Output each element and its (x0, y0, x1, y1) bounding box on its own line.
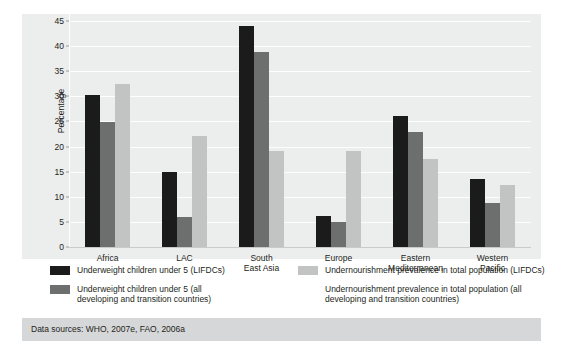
bar (100, 122, 115, 247)
y-axis-tick-label: 20 (55, 142, 64, 152)
chart-legend: Underweight children under 5 (LIFDCs) Un… (22, 265, 541, 310)
bar (485, 203, 500, 247)
bar (408, 132, 423, 248)
bar-group: Western Pacific (454, 21, 531, 247)
legend-item: Undernourishment prevalence in total pop… (298, 284, 548, 304)
legend-item: Underweight children under 5 (all develo… (50, 284, 280, 304)
legend-label: Underweight children under 5 (LIFDCs) (77, 265, 225, 275)
bar (115, 84, 130, 247)
chart-figure: Percentage 051015202530354045 AfricaLACS… (0, 0, 563, 349)
bar (192, 136, 207, 247)
legend-swatch-icon (298, 266, 318, 275)
bar (423, 159, 438, 247)
legend-label: Undernourishment prevalence in total pop… (325, 284, 522, 304)
x-axis-tick-label: Europe (325, 253, 352, 263)
data-source-bar: Data sources: WHO, 2007e, FAO, 2006a (22, 318, 541, 341)
bar (500, 185, 515, 247)
plot-panel: Percentage 051015202530354045 AfricaLACS… (22, 14, 541, 259)
y-axis-tick-label: 30 (55, 91, 64, 101)
y-axis-tick-label: 25 (55, 116, 64, 126)
x-axis-tick-label: Africa (97, 253, 119, 263)
bar (254, 52, 269, 247)
legend-swatch-icon (50, 285, 70, 294)
bar (331, 222, 346, 247)
y-axis-tick-label: 40 (55, 41, 64, 51)
bar (393, 116, 408, 247)
bar (269, 151, 284, 247)
bar (316, 216, 331, 247)
bar-group: South East Asia (223, 21, 300, 247)
y-axis-tick-label: 10 (55, 192, 64, 202)
bar (346, 151, 361, 247)
legend-item: Underweight children under 5 (LIFDCs) (50, 265, 280, 275)
y-axis-tick-label: 5 (59, 217, 64, 227)
bar (177, 217, 192, 247)
legend-label: Underweight children under 5 (all develo… (77, 284, 211, 304)
legend-item: Undernourishment prevalence in total pop… (298, 265, 548, 275)
bar-group: LAC (146, 21, 223, 247)
x-axis-tick-label: LAC (176, 253, 193, 263)
legend-swatch-icon (50, 266, 70, 275)
gridline (69, 247, 531, 248)
bar (85, 95, 100, 247)
bar (162, 172, 177, 247)
data-source-text: Data sources: WHO, 2007e, FAO, 2006a (31, 324, 185, 334)
bar-group: Africa (69, 21, 146, 247)
y-axis-tick-label: 15 (55, 167, 64, 177)
y-axis-tick-label: 0 (59, 242, 64, 252)
bar (470, 179, 485, 247)
y-axis-tick-label: 35 (55, 66, 64, 76)
legend-label: Undernourishment prevalence in total pop… (325, 265, 545, 275)
bar-group: Europe (300, 21, 377, 247)
y-axis-tick-label: 45 (55, 16, 64, 26)
bar-group: Eastern Mediterranean (377, 21, 454, 247)
plot-area: 051015202530354045 AfricaLACSouth East A… (69, 21, 531, 247)
bar (239, 26, 254, 247)
